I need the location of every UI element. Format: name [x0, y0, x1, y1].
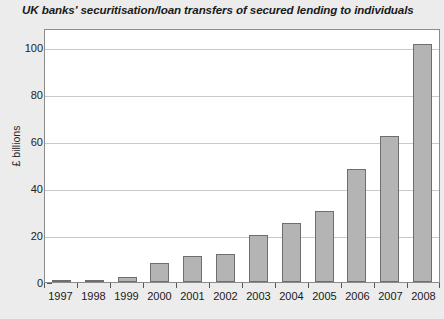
x-tick-mark — [77, 283, 78, 288]
x-tick-mark — [308, 283, 309, 288]
x-tick-slot — [374, 283, 407, 289]
x-tick-mark — [44, 283, 45, 288]
x-tick-slot — [341, 283, 374, 289]
bar-slot — [143, 30, 176, 282]
y-tick-label: 60 — [31, 136, 43, 148]
y-tick-label: 80 — [31, 89, 43, 101]
bar-slot — [308, 30, 341, 282]
bar-slot — [406, 30, 439, 282]
x-tick-label: 2004 — [275, 290, 308, 302]
x-tick-label: 2002 — [209, 290, 242, 302]
bar-slot — [78, 30, 111, 282]
y-tick-label: 40 — [31, 183, 43, 195]
x-tick-slot — [176, 283, 209, 289]
x-axis-tick-marks — [44, 283, 440, 289]
x-tick-label: 1998 — [77, 290, 110, 302]
x-tick-slot — [242, 283, 275, 289]
x-tick-slot — [110, 283, 143, 289]
bar[interactable] — [118, 277, 137, 282]
bar[interactable] — [85, 280, 104, 282]
x-tick-label: 1997 — [44, 290, 77, 302]
bar-slot — [209, 30, 242, 282]
bar[interactable] — [52, 280, 71, 282]
bar-slot — [242, 30, 275, 282]
bar-slot — [340, 30, 373, 282]
x-tick-slot — [143, 283, 176, 289]
bar[interactable] — [216, 254, 235, 282]
bar[interactable] — [150, 263, 169, 282]
x-tick-mark — [242, 283, 243, 288]
bar-slot — [275, 30, 308, 282]
x-tick-label: 2006 — [341, 290, 374, 302]
x-tick-label: 2008 — [407, 290, 440, 302]
x-tick-mark — [143, 283, 144, 288]
x-axis-labels: 1997199819992000200120022003200420052006… — [44, 290, 440, 302]
bar-slot — [373, 30, 406, 282]
bar[interactable] — [282, 223, 301, 282]
bar[interactable] — [380, 136, 399, 282]
bar-slot — [176, 30, 209, 282]
x-tick-label: 1999 — [110, 290, 143, 302]
bar-series — [45, 30, 439, 282]
x-tick-slot — [209, 283, 242, 289]
x-tick-label: 2005 — [308, 290, 341, 302]
bar[interactable] — [249, 235, 268, 282]
x-tick-label: 2001 — [176, 290, 209, 302]
x-tick-mark — [209, 283, 210, 288]
bar[interactable] — [413, 44, 432, 282]
chart-title: UK banks' securitisation/loan transfers … — [22, 3, 442, 16]
bar[interactable] — [315, 211, 334, 282]
y-tick-label: 100 — [25, 42, 43, 54]
plot-area — [44, 29, 440, 283]
x-tick-mark — [110, 283, 111, 288]
x-tick-slot — [77, 283, 110, 289]
y-tick-label: 0 — [37, 277, 43, 289]
x-tick-label: 2000 — [143, 290, 176, 302]
x-tick-mark — [275, 283, 276, 288]
y-tick-label: 20 — [31, 230, 43, 242]
x-tick-label: 2007 — [374, 290, 407, 302]
bar-slot — [111, 30, 144, 282]
x-tick-mark — [341, 283, 342, 288]
x-tick-mark — [407, 283, 408, 288]
bar-chart-figure: UK banks' securitisation/loan transfers … — [0, 0, 444, 319]
x-tick-slot — [275, 283, 308, 289]
x-tick-mark — [374, 283, 375, 288]
bar[interactable] — [183, 256, 202, 282]
x-tick-slot — [44, 283, 77, 289]
bar-slot — [45, 30, 78, 282]
bar[interactable] — [347, 169, 366, 282]
x-tick-slot — [308, 283, 341, 289]
x-tick-mark — [176, 283, 177, 288]
x-tick-mark — [439, 283, 440, 288]
x-tick-label: 2003 — [242, 290, 275, 302]
x-tick-slot — [407, 283, 440, 289]
